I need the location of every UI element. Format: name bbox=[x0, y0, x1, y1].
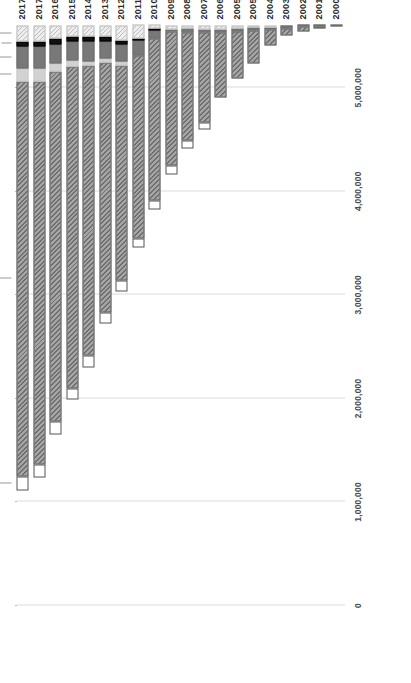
stacked-bar[interactable] bbox=[264, 25, 276, 45]
stacked-bar[interactable] bbox=[231, 25, 243, 78]
stacked-bar[interactable] bbox=[148, 24, 160, 209]
stacked-bar[interactable] bbox=[66, 25, 78, 399]
bar-segment-ford[interactable] bbox=[115, 25, 127, 40]
bar-row[interactable] bbox=[181, 25, 193, 605]
bar-segment-other[interactable] bbox=[148, 200, 160, 209]
bar-segment-hyundai[interactable] bbox=[99, 58, 111, 62]
bar-segment-toyota[interactable] bbox=[214, 32, 226, 97]
bar-segment-honda[interactable] bbox=[33, 46, 45, 68]
bar-segment-other[interactable] bbox=[181, 140, 193, 147]
bar-segment-other[interactable] bbox=[115, 280, 127, 290]
bar-segment-ford[interactable] bbox=[148, 24, 160, 28]
bar-row[interactable] bbox=[165, 25, 177, 605]
stacked-bar[interactable] bbox=[181, 25, 193, 148]
bar-row[interactable] bbox=[99, 25, 111, 605]
bar-segment-ford[interactable] bbox=[66, 25, 78, 36]
stacked-bar[interactable] bbox=[132, 24, 144, 247]
bar-segment-toyota[interactable] bbox=[330, 24, 342, 26]
bar-segment-gm[interactable] bbox=[33, 41, 45, 47]
stacked-bar[interactable] bbox=[247, 25, 259, 63]
bar-segment-other[interactable] bbox=[16, 476, 28, 489]
bar-segment-honda[interactable] bbox=[313, 24, 325, 26]
bar-segment-ford[interactable] bbox=[231, 25, 243, 28]
bar-segment-toyota[interactable] bbox=[280, 28, 292, 35]
stacked-bar[interactable] bbox=[82, 25, 94, 367]
bar-row[interactable] bbox=[115, 25, 127, 605]
bar-row[interactable] bbox=[280, 25, 292, 605]
bar-segment-other[interactable] bbox=[33, 464, 45, 477]
stacked-bar[interactable] bbox=[99, 25, 111, 323]
bar-segment-honda[interactable] bbox=[66, 41, 78, 60]
stacked-bar[interactable] bbox=[165, 25, 177, 174]
bar-segment-other[interactable] bbox=[49, 421, 61, 433]
bar-segment-honda[interactable] bbox=[115, 44, 127, 62]
stacked-bar[interactable] bbox=[280, 25, 292, 35]
bar-segment-hyundai[interactable] bbox=[16, 68, 28, 80]
bar-row[interactable] bbox=[148, 25, 160, 605]
bar-segment-honda[interactable] bbox=[16, 46, 28, 68]
bar-segment-hyundai[interactable] bbox=[33, 68, 45, 80]
bar-segment-other[interactable] bbox=[66, 388, 78, 399]
bar-segment-honda[interactable] bbox=[280, 25, 292, 28]
bar-segment-toyota[interactable] bbox=[115, 65, 127, 280]
bar-row[interactable] bbox=[330, 25, 342, 605]
bar-segment-toyota[interactable] bbox=[33, 81, 45, 464]
bar-segment-hyundai[interactable] bbox=[49, 63, 61, 71]
stacked-bar[interactable] bbox=[214, 25, 226, 97]
bar-segment-ford[interactable] bbox=[214, 25, 226, 29]
bar-segment-toyota[interactable] bbox=[66, 66, 78, 388]
bar-segment-toyota[interactable] bbox=[82, 65, 94, 355]
bar-row[interactable] bbox=[247, 25, 259, 605]
bar-segment-honda[interactable] bbox=[82, 41, 94, 61]
bar-segment-toyota[interactable] bbox=[148, 38, 160, 200]
bar-segment-other[interactable] bbox=[165, 165, 177, 173]
stacked-bar[interactable] bbox=[33, 25, 45, 477]
bar-segment-toyota[interactable] bbox=[198, 32, 210, 122]
bar-segment-toyota[interactable] bbox=[181, 32, 193, 141]
bar-segment-toyota[interactable] bbox=[264, 29, 276, 45]
stacked-bar[interactable] bbox=[16, 25, 28, 490]
bar-segment-toyota[interactable] bbox=[16, 81, 28, 477]
bar-row[interactable] bbox=[49, 25, 61, 605]
bar-segment-toyota[interactable] bbox=[132, 55, 144, 237]
bar-segment-hyundai[interactable] bbox=[82, 61, 94, 65]
bar-segment-ford[interactable] bbox=[181, 25, 193, 28]
bar-segment-honda[interactable] bbox=[297, 24, 309, 26]
bar-segment-toyota[interactable] bbox=[99, 62, 111, 313]
bar-segment-gm[interactable] bbox=[49, 39, 61, 45]
bar-segment-ford[interactable] bbox=[33, 25, 45, 41]
bar-row[interactable] bbox=[264, 25, 276, 605]
bar-segment-hyundai[interactable] bbox=[66, 60, 78, 66]
stacked-bar[interactable] bbox=[49, 25, 61, 434]
stacked-bar[interactable] bbox=[198, 25, 210, 129]
bar-segment-gm[interactable] bbox=[115, 40, 127, 44]
bar-row[interactable] bbox=[214, 25, 226, 605]
bar-segment-ford[interactable] bbox=[99, 25, 111, 36]
bar-segment-ford[interactable] bbox=[16, 25, 28, 41]
bar-row[interactable] bbox=[66, 25, 78, 605]
bar-segment-ford[interactable] bbox=[165, 25, 177, 29]
bar-row[interactable] bbox=[82, 25, 94, 605]
bar-segment-other[interactable] bbox=[132, 238, 144, 248]
bar-segment-honda[interactable] bbox=[99, 41, 111, 59]
bar-row[interactable] bbox=[313, 25, 325, 605]
bar-segment-ford[interactable] bbox=[264, 25, 276, 27]
bar-row[interactable] bbox=[33, 25, 45, 605]
bar-row[interactable] bbox=[198, 25, 210, 605]
bar-segment-toyota[interactable] bbox=[231, 31, 243, 79]
bar-segment-ford[interactable] bbox=[49, 25, 61, 38]
bar-row[interactable] bbox=[297, 25, 309, 605]
bar-segment-gm[interactable] bbox=[82, 36, 94, 41]
bar-segment-ford[interactable] bbox=[247, 25, 259, 27]
stacked-bar[interactable] bbox=[330, 24, 342, 26]
stacked-bar[interactable] bbox=[115, 25, 127, 291]
stacked-bar[interactable] bbox=[297, 24, 309, 30]
bar-segment-toyota[interactable] bbox=[49, 71, 61, 421]
bar-row[interactable] bbox=[132, 25, 144, 605]
bar-row[interactable] bbox=[16, 25, 28, 605]
bar-segment-other[interactable] bbox=[198, 122, 210, 128]
bar-segment-toyota[interactable] bbox=[247, 30, 259, 63]
bar-segment-honda[interactable] bbox=[148, 30, 160, 38]
bar-segment-honda[interactable] bbox=[49, 44, 61, 63]
bar-segment-other[interactable] bbox=[99, 312, 111, 322]
